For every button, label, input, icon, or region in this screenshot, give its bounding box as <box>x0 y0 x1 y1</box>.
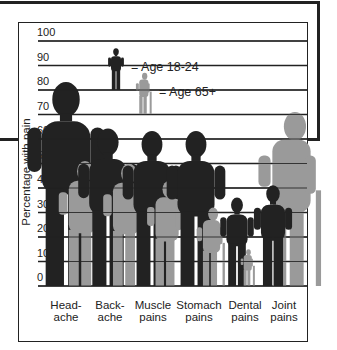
y-tick-label: 70 <box>37 100 49 112</box>
x-category-label: pains <box>185 311 213 323</box>
x-category-label: ache <box>54 311 79 323</box>
x-category-label: Dental <box>228 299 261 311</box>
x-category-label: Head- <box>50 299 81 311</box>
y-tick-label: 90 <box>37 51 49 63</box>
x-category-label: ache <box>98 311 123 323</box>
x-category-label: Stomach <box>176 299 221 311</box>
legend-label-old: = Age 65+ <box>159 85 216 99</box>
legend: = Age 18-24= Age 65+ <box>108 48 216 114</box>
y-tick-label: 100 <box>37 26 55 38</box>
x-category-label: Back- <box>95 299 125 311</box>
y-tick-label: 80 <box>37 75 49 87</box>
x-category-label: Muscle <box>135 299 171 311</box>
x-category-label: pains <box>139 311 167 323</box>
x-category-label: pains <box>231 311 259 323</box>
pictogram-chart: 0102030405060708090100Percentage with pa… <box>0 0 337 350</box>
legend-young-figure-icon <box>108 48 124 90</box>
y-tick-label: 0 <box>37 271 43 283</box>
x-category-label: Joint <box>272 299 297 311</box>
x-category-label: pains <box>270 311 298 323</box>
figures <box>27 82 321 286</box>
legend-label-young: = Age 18-24 <box>131 60 199 74</box>
legend-old-figure-icon <box>136 73 152 115</box>
